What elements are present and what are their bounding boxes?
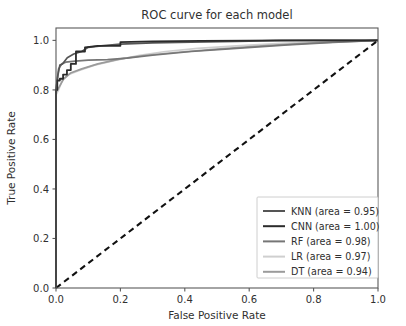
legend-label-cnn: CNN (area = 1.00) bbox=[291, 221, 379, 232]
legend-label-knn: KNN (area = 0.95) bbox=[291, 206, 379, 217]
x-tick-label: 0.6 bbox=[241, 294, 257, 305]
y-tick-label: 0.6 bbox=[33, 134, 49, 145]
x-axis-ticks: 0.00.20.40.60.81.0 bbox=[48, 288, 386, 305]
y-axis-label: True Positive Rate bbox=[5, 111, 17, 206]
x-tick-label: 0.0 bbox=[48, 294, 64, 305]
roc-chart-figure: ROC curve for each model 0.00.20.40.60.8… bbox=[0, 0, 406, 326]
x-tick-label: 1.0 bbox=[370, 294, 386, 305]
y-tick-label: 0.2 bbox=[33, 233, 49, 244]
x-tick-label: 0.4 bbox=[177, 294, 193, 305]
chart-legend[interactable]: KNN (area = 0.95)CNN (area = 1.00)RF (ar… bbox=[257, 197, 379, 278]
y-tick-label: 0.8 bbox=[33, 85, 49, 96]
chart-title: ROC curve for each model bbox=[141, 8, 292, 22]
roc-plot-svg: ROC curve for each model 0.00.20.40.60.8… bbox=[0, 0, 406, 326]
y-tick-label: 0.4 bbox=[33, 184, 49, 195]
y-tick-label: 1.0 bbox=[33, 35, 49, 46]
x-axis-label: False Positive Rate bbox=[168, 309, 266, 321]
legend-label-dt: DT (area = 0.94) bbox=[291, 266, 372, 277]
y-axis-ticks: 0.00.20.40.60.81.0 bbox=[33, 35, 56, 294]
y-tick-label: 0.0 bbox=[33, 283, 49, 294]
legend-label-rf: RF (area = 0.98) bbox=[291, 236, 371, 247]
legend-label-lr: LR (area = 0.97) bbox=[291, 251, 370, 262]
x-tick-label: 0.8 bbox=[306, 294, 322, 305]
x-tick-label: 0.2 bbox=[112, 294, 128, 305]
